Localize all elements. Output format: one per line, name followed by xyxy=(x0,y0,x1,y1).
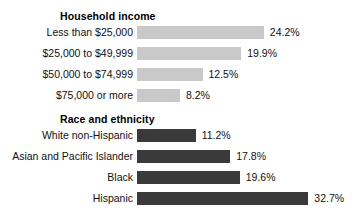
bar-chart: Household incomeLess than $25,00024.2%$2… xyxy=(0,0,355,214)
bar-row: Black19.6% xyxy=(0,171,355,184)
bar-fill xyxy=(137,129,196,142)
bar-track xyxy=(137,89,180,102)
bar-row: Hispanic32.7% xyxy=(0,192,355,205)
bar-fill xyxy=(137,171,240,184)
bar-fill xyxy=(137,26,264,39)
bar-category-label: Asian and Pacific Islander xyxy=(0,150,133,163)
bar-category-label: $75,000 or more xyxy=(0,89,133,102)
bar-category-label: Black xyxy=(0,171,133,184)
bar-row: Less than $25,00024.2% xyxy=(0,26,355,39)
bar-category-label: $50,000 to $74,999 xyxy=(0,68,133,81)
bar-row: $25,000 to $49,99919.9% xyxy=(0,47,355,60)
bar-category-label: Less than $25,000 xyxy=(0,26,133,39)
bar-fill xyxy=(137,89,180,102)
bar-track xyxy=(137,47,241,60)
panel-heading: Household income xyxy=(60,10,156,22)
bar-row: Asian and Pacific Islander17.8% xyxy=(0,150,355,163)
bar-value-label: 19.6% xyxy=(246,171,276,184)
bar-track xyxy=(137,171,240,184)
bar-value-label: 12.5% xyxy=(209,68,239,81)
bar-category-label: $25,000 to $49,999 xyxy=(0,47,133,60)
bar-value-label: 24.2% xyxy=(270,26,300,39)
bar-track xyxy=(137,150,230,163)
bar-row: White non-Hispanic11.2% xyxy=(0,129,355,142)
bar-track xyxy=(137,192,308,205)
bar-track xyxy=(137,68,203,81)
bar-fill xyxy=(137,150,230,163)
panel-heading: Race and ethnicity xyxy=(60,113,155,125)
bar-fill xyxy=(137,47,241,60)
bar-value-label: 32.7% xyxy=(314,192,344,205)
bar-category-label: White non-Hispanic xyxy=(0,129,133,142)
bar-track xyxy=(137,129,196,142)
bar-value-label: 11.2% xyxy=(202,129,231,142)
bar-value-label: 17.8% xyxy=(236,150,266,163)
bar-value-label: 8.2% xyxy=(186,89,210,102)
bar-fill xyxy=(137,192,308,205)
bar-row: $50,000 to $74,99912.5% xyxy=(0,68,355,81)
bar-fill xyxy=(137,68,203,81)
bar-row: $75,000 or more8.2% xyxy=(0,89,355,102)
bar-value-label: 19.9% xyxy=(247,47,277,60)
bar-category-label: Hispanic xyxy=(0,192,133,205)
bar-track xyxy=(137,26,264,39)
